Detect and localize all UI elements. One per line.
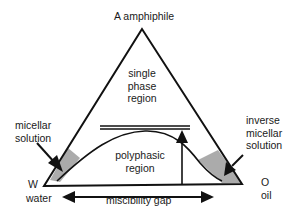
single-phase-region-label: single phase region xyxy=(122,67,162,105)
inverse-micellar-line-3: solution xyxy=(246,139,282,152)
vertical-arrow-head xyxy=(176,130,188,143)
inverse-micellar-shaded-region xyxy=(198,150,242,183)
polyphasic-line-1: polyphasic xyxy=(110,149,170,162)
vertex-symbol-oil: O xyxy=(261,176,269,189)
single-phase-line-1: single xyxy=(122,67,162,80)
inverse-micellar-line-2: micellar xyxy=(246,127,282,140)
vertex-name-water: water xyxy=(26,192,52,205)
ternary-diagram xyxy=(0,0,298,218)
vertex-symbol-water: W xyxy=(28,178,38,191)
inverse-micellar-solution-label: inverse micellar solution xyxy=(246,114,282,152)
polyphasic-region-label: polyphasic region xyxy=(110,149,170,174)
miscibility-gap-arrow-right-head xyxy=(201,191,214,203)
vertex-name-oil: oil xyxy=(261,189,272,202)
vertex-label-amphiphile: A amphiphile xyxy=(114,10,174,23)
inverse-micellar-line-1: inverse xyxy=(246,114,282,127)
inverse-micellar-arrow-shaft xyxy=(232,155,243,166)
micellar-line-2: solution xyxy=(15,132,51,145)
micellar-line-1: micellar xyxy=(15,119,51,132)
miscibility-gap-arrow-left-head xyxy=(62,191,75,203)
micellar-solution-label: micellar solution xyxy=(15,119,51,144)
single-phase-line-3: region xyxy=(122,92,162,105)
single-phase-line-2: phase xyxy=(122,80,162,93)
miscibility-gap-label: miscibility gap xyxy=(106,194,171,207)
polyphasic-line-2: region xyxy=(110,162,170,175)
